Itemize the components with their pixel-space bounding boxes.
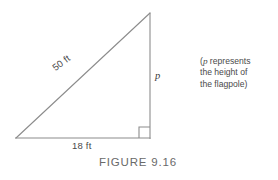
height-variable-label: p [155, 70, 160, 81]
annotation-line-3: the flagpole) [200, 79, 276, 90]
annotation-line-1: (p represents [200, 56, 276, 67]
base-label: 18 ft [72, 140, 92, 151]
annotation-note: (p represents the height of the flagpole… [200, 56, 276, 90]
hypotenuse-line [16, 13, 150, 138]
figure-page: 50 ft 18 ft p (p represents the height o… [0, 0, 278, 180]
right-angle-marker-icon [139, 127, 150, 138]
annotation-line-1-text: represents [207, 56, 250, 66]
figure-caption: FIGURE 9.16 [99, 156, 177, 168]
annotation-line-2: the height of [200, 67, 276, 78]
